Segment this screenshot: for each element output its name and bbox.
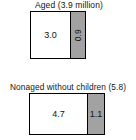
bar-segment-value-gray-aged: 0.9 bbox=[74, 29, 83, 41]
stacked-bar-chart: Aged (3.9 million) 3.0 0.9 Nonaged witho… bbox=[0, 0, 136, 140]
bar-segment-gray-nonaged: 1.1 bbox=[87, 94, 104, 134]
bar-segment-gray-aged: 0.9 bbox=[70, 12, 85, 58]
bar-segment-value-white-nonaged: 4.7 bbox=[52, 110, 65, 119]
bar-segment-value-gray-nonaged: 1.1 bbox=[90, 110, 103, 119]
stacked-bar-nonaged: 4.7 1.1 bbox=[29, 93, 105, 135]
stacked-bar-aged: 3.0 0.9 bbox=[30, 11, 86, 59]
bar-segment-value-white-aged: 3.0 bbox=[44, 31, 57, 40]
bar-segment-white-aged: 3.0 bbox=[31, 12, 70, 58]
bar-group-title-aged: Aged (3.9 million) bbox=[0, 0, 136, 11]
bar-group-title-nonaged: Nonaged without children (5.8) bbox=[0, 82, 136, 93]
bar-group-aged: Aged (3.9 million) 3.0 0.9 bbox=[0, 0, 136, 59]
bar-segment-white-nonaged: 4.7 bbox=[30, 94, 87, 134]
bar-group-nonaged: Nonaged without children (5.8) 4.7 1.1 bbox=[0, 82, 136, 135]
